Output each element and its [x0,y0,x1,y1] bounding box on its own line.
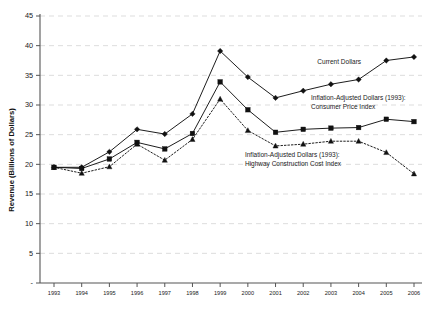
ann-current-dollars-line: Current Dollars [317,57,361,66]
ann-hcci: Inflation-Adjusted Dollars (1993):Highwa… [245,150,341,169]
ann-cpi-line: Inflation-Adjusted Dollars (1993): [311,93,406,102]
ann-cpi: Inflation-Adjusted Dollars (1993):Consum… [311,93,406,112]
series-annotations: Current DollarsInflation-Adjusted Dollar… [0,0,426,309]
ann-cpi-line: Consumer Price Index [311,102,406,111]
ann-hcci-line: Inflation-Adjusted Dollars (1993): [245,150,341,159]
ann-current-dollars: Current Dollars [317,57,361,66]
ann-hcci-line: Highway Construction Cost Index [245,159,341,168]
revenue-line-chart: -51015202530354045 199319941995199619971… [0,0,426,309]
